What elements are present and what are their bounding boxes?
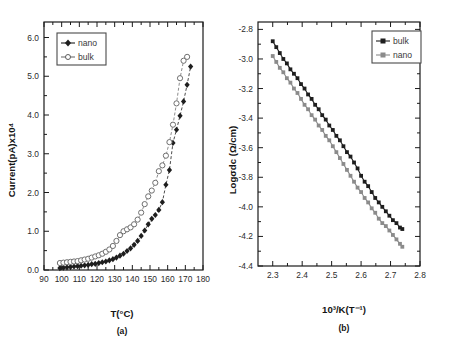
panel-b-xtick-label: 2.5 [326, 270, 338, 280]
panel-a-point-bulk [170, 122, 175, 127]
panel-b-point-bulk [271, 39, 275, 43]
panel-b-ytick-label: -3.4 [239, 113, 254, 123]
panel-b-point-bulk [285, 62, 289, 66]
panel-b-point-nano [306, 107, 310, 111]
panel-a-point-bulk [149, 188, 154, 193]
figure-container: 901001101201301401501601701800.01.02.03.… [0, 0, 449, 344]
panel-a-xtick-label: 130 [108, 274, 122, 284]
panel-a-xaxis-title: T(°C) [110, 308, 133, 319]
panel-a-ytick-label: 1.0 [27, 226, 39, 236]
panel-a-point-nano [156, 207, 161, 213]
panel-b-point-bulk [391, 218, 395, 222]
panel-b-point-bulk [356, 167, 360, 171]
panel-b-xtick-label: 2.3 [267, 270, 279, 280]
panel-b-point-nano [395, 237, 399, 241]
panel-a-point-bulk [135, 217, 140, 222]
panel-b-point-bulk [317, 107, 321, 111]
panel-b-point-nano [296, 91, 300, 95]
panel-b-point-nano [271, 54, 275, 58]
panel-b-point-nano [363, 196, 367, 200]
panel-b-point-bulk [306, 93, 310, 97]
panel-a-ytick-label: 2.0 [27, 188, 39, 198]
panel-b-point-nano [289, 81, 293, 85]
panel-a-point-bulk [110, 243, 115, 248]
panel-a-series-line-nano [60, 67, 191, 269]
panel-a-point-bulk [167, 140, 172, 145]
panel-b-point-nano [349, 174, 353, 178]
panel-b-legend-label-nano: nano [393, 50, 412, 60]
panel-b-point-nano [274, 60, 278, 64]
panel-a-point-nano [167, 167, 172, 173]
panel-a: 901001101201301401501601701800.01.02.03.… [0, 0, 225, 344]
panel-b-point-bulk [370, 190, 374, 194]
panel-a-point-nano [142, 227, 147, 233]
panel-a-ytick-label: 4.0 [27, 110, 39, 120]
panel-a-xtick-label: 170 [178, 274, 192, 284]
panel-a-ytick-label: 3.0 [27, 149, 39, 159]
panel-b-point-bulk [380, 205, 384, 209]
panel-b-ytick-label: -4.2 [239, 231, 254, 241]
panel-a-legend: nano bulk [57, 33, 106, 65]
panel-a-curves [57, 54, 193, 271]
panel-b-point-bulk [278, 51, 282, 55]
panel-b-point-bulk [342, 144, 346, 148]
panel-b-point-nano [334, 150, 338, 154]
panel-b-point-bulk [334, 134, 338, 138]
panel-b-point-bulk [327, 124, 331, 128]
panel-a-ytick-label: 6.0 [27, 33, 39, 43]
panel-b-point-bulk [363, 180, 367, 184]
panel-b-point-bulk [310, 97, 314, 101]
panel-a-xtick-label: 90 [39, 274, 49, 284]
panel-b-point-nano [352, 180, 356, 184]
panel-a-point-nano [149, 216, 154, 222]
panel-a-xtick-label: 100 [55, 274, 69, 284]
panel-b-ytick-label: -4.0 [239, 202, 254, 212]
panel-a-point-bulk [163, 153, 168, 158]
panel-b-xtick-label: 2.7 [385, 270, 397, 280]
panel-b-point-bulk [349, 155, 353, 159]
panel-a-point-bulk [177, 76, 182, 81]
panel-a-point-bulk [160, 163, 165, 168]
panel-a-point-nano [153, 212, 158, 218]
panel-b-point-bulk [387, 214, 391, 218]
panel-b-ytick-label: -3.2 [239, 84, 254, 94]
panel-a-point-nano [163, 182, 168, 188]
panel-a-xtick-label: 160 [161, 274, 175, 284]
panel-a-tick-labels: 901001101201301401501601701800.01.02.03.… [27, 33, 210, 285]
panel-b-curves [271, 39, 404, 248]
panel-b-point-nano [303, 103, 307, 107]
panel-a-legend-label-bulk: bulk [78, 52, 94, 62]
panel-b-xtick-label: 2.6 [355, 270, 367, 280]
panel-b-point-nano [317, 124, 321, 128]
panel-b-point-bulk [274, 45, 278, 49]
panel-b-point-nano [359, 190, 363, 194]
panel-b-point-nano [342, 162, 346, 166]
panel-b-point-bulk [296, 76, 300, 80]
panel-b-point-bulk [400, 227, 404, 231]
panel-a-point-nano [177, 113, 182, 119]
panel-a-point-bulk [174, 101, 179, 106]
panel-a-point-nano [188, 63, 193, 69]
panel-a-plot: 901001101201301401501601701800.01.02.03.… [0, 0, 225, 344]
panel-a-legend-label-nano: nano [78, 38, 97, 48]
panel-b-point-nano [345, 168, 349, 172]
panel-a-point-nano [185, 82, 190, 88]
panel-b-ytick-label: -3.0 [239, 54, 254, 64]
panel-b-point-bulk [338, 138, 342, 142]
panel-b-xtick-label: 2.4 [296, 270, 308, 280]
panel-b-point-nano [366, 201, 370, 205]
panel-b-ytick-label: -3.8 [239, 172, 254, 182]
panel-a-ytick-label: 0.0 [27, 265, 39, 275]
panel-a-caption: (a) [117, 326, 128, 336]
panel-b-point-nano [281, 70, 285, 74]
panel-b-point-nano [356, 186, 360, 190]
panel-a-point-bulk [153, 180, 158, 185]
panel-a-point-bulk [185, 54, 190, 59]
panel-b-xaxis-title: 10³/K(T⁻¹) [322, 304, 366, 315]
panel-b-point-nano [400, 245, 404, 249]
panel-b-point-nano [380, 221, 384, 225]
panel-a-point-bulk [139, 210, 144, 215]
panel-b-point-nano [320, 128, 324, 132]
panel-b-point-bulk [373, 196, 377, 200]
panel-a-point-bulk [156, 169, 161, 174]
